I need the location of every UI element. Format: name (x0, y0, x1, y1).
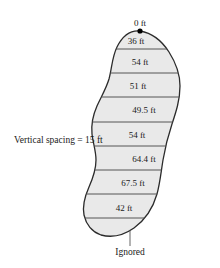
ignored-note: Ignored (115, 248, 145, 258)
apex-label: 0 ft (134, 19, 146, 28)
area-diagram (0, 0, 220, 268)
apex-point-marker (137, 28, 142, 33)
segment-label-7: 67.5 ft (121, 179, 145, 188)
segment-label-8: 42 ft (116, 204, 133, 213)
segment-label-2: 54 ft (132, 58, 149, 67)
segment-label-1: 36 ft (128, 37, 145, 46)
segment-label-3: 51 ft (130, 82, 147, 91)
segment-label-4: 49.5 ft (132, 106, 156, 115)
segment-label-6: 64.4 ft (132, 155, 156, 164)
segment-label-5: 54 ft (129, 131, 146, 140)
vertical-spacing-note: Vertical spacing = 15 ft (14, 136, 103, 146)
